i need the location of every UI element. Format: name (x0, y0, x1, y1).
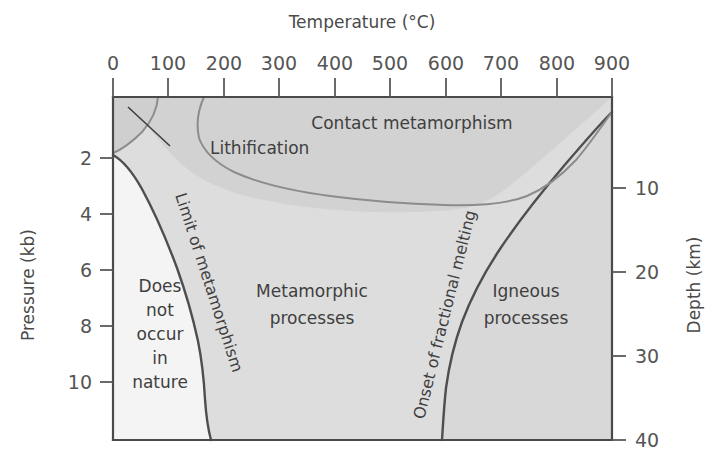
y2-axis-ticks (612, 188, 626, 440)
y-tick-label: 6 (80, 259, 92, 281)
x-tick-label: 400 (317, 52, 353, 74)
region-label-lithification: Lithification (210, 138, 309, 158)
metamorphic-processes-line-2: processes (270, 308, 355, 328)
y-tick-label: 8 (80, 315, 92, 337)
y-axis-ticks (100, 158, 113, 382)
y2-tick-label: 30 (635, 345, 659, 367)
x-tick-label: 800 (539, 52, 575, 74)
does-not-occur-line-2: not (146, 300, 174, 320)
x-tick-label: 900 (594, 52, 630, 74)
x-tick-label: 300 (261, 52, 297, 74)
y-tick-label: 2 (80, 147, 92, 169)
y2-axis-title: Depth (km) (684, 237, 704, 334)
x-tick-label: 600 (428, 52, 464, 74)
y2-tick-label: 40 (635, 429, 659, 451)
does-not-occur-line-4: in (152, 348, 168, 368)
y-axis-tick-labels: 2 4 6 8 10 (68, 147, 92, 393)
y2-tick-label: 10 (635, 177, 659, 199)
y-axis-title: Pressure (kb) (18, 229, 38, 341)
metamorphic-phase-diagram: 0 100 200 300 400 500 600 700 800 900 2 … (0, 0, 725, 466)
y-tick-label: 10 (68, 371, 92, 393)
igneous-processes-line-1: Igneous (492, 281, 559, 301)
y2-axis-tick-labels: 10 20 30 40 (635, 177, 659, 451)
region-label-contact-metamorphism: Contact metamorphism (311, 113, 512, 133)
x-tick-label: 100 (150, 52, 186, 74)
y-tick-label: 4 (80, 203, 92, 225)
region-label-does-not-occur: Does not occur in nature (132, 276, 188, 392)
x-tick-label: 500 (372, 52, 408, 74)
x-axis-tick-labels: 0 100 200 300 400 500 600 700 800 900 (107, 52, 630, 74)
does-not-occur-line-3: occur (137, 324, 184, 344)
x-tick-label: 0 (107, 52, 119, 74)
igneous-processes-line-2: processes (484, 308, 569, 328)
metamorphic-processes-line-1: Metamorphic (256, 281, 368, 301)
x-tick-label: 700 (483, 52, 519, 74)
does-not-occur-line-5: nature (132, 372, 188, 392)
y2-tick-label: 20 (635, 261, 659, 283)
x-axis-title: Temperature (°C) (288, 12, 436, 32)
does-not-occur-line-1: Does (139, 276, 182, 296)
x-axis-ticks (113, 78, 612, 97)
x-tick-label: 200 (206, 52, 242, 74)
